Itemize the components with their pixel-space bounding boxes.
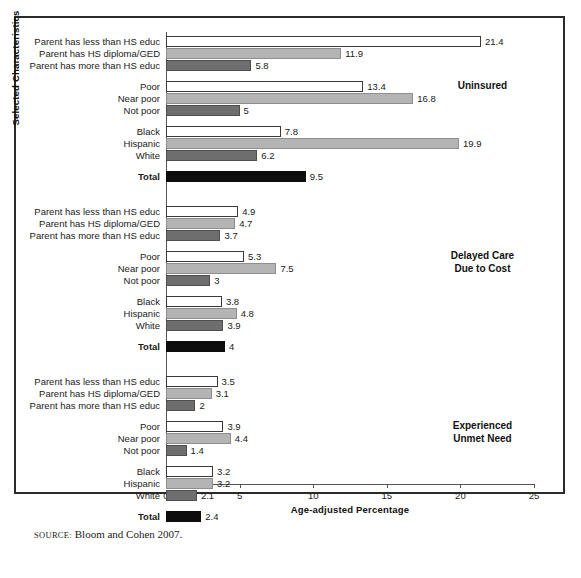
row-label: Parent has HS diploma/GED bbox=[39, 48, 160, 60]
bar-value-label: 3.7 bbox=[224, 230, 237, 241]
row-label: Total bbox=[138, 511, 160, 523]
bar-row: 1.4 bbox=[166, 445, 534, 456]
bar[interactable] bbox=[166, 126, 281, 137]
bar-row: 3 bbox=[166, 275, 534, 286]
row-label: Black bbox=[137, 466, 160, 478]
row-label: Parent has more than HS educ bbox=[30, 400, 160, 412]
bar[interactable] bbox=[166, 48, 341, 59]
bar[interactable] bbox=[166, 478, 213, 489]
x-axis-title: Age-adjusted Percentage bbox=[166, 504, 534, 515]
bar-row: 4.9 bbox=[166, 206, 534, 217]
row-label: Total bbox=[138, 341, 160, 353]
panel-caption: Delayed CareDue to Cost bbox=[451, 250, 514, 275]
row-label-column: Parent has less than HS educParent has H… bbox=[16, 32, 160, 480]
bar-row: 2 bbox=[166, 400, 534, 411]
bar[interactable] bbox=[166, 263, 276, 274]
bar[interactable] bbox=[166, 36, 481, 47]
row-label: Parent has HS diploma/GED bbox=[39, 388, 160, 400]
bar-value-label: 13.4 bbox=[367, 81, 386, 92]
panel-caption-line: Due to Cost bbox=[451, 263, 514, 276]
bar-row: 7.8 bbox=[166, 126, 534, 137]
row-label: Poor bbox=[140, 81, 160, 93]
bar[interactable] bbox=[166, 341, 225, 352]
row-label: Parent has less than HS educ bbox=[34, 206, 160, 218]
bar-value-label: 9.5 bbox=[310, 171, 323, 182]
bar[interactable] bbox=[166, 150, 257, 161]
bar-row: 4.7 bbox=[166, 218, 534, 229]
bar-row: 3.2 bbox=[166, 466, 534, 477]
bar-row: 3.7 bbox=[166, 230, 534, 241]
bar-row: 19.9 bbox=[166, 138, 534, 149]
bar[interactable] bbox=[166, 251, 244, 262]
bar-value-label: 19.9 bbox=[463, 138, 482, 149]
figure-frame: Selected Characteristics Parent has less… bbox=[14, 16, 565, 494]
bar-value-label: 11.9 bbox=[345, 48, 363, 59]
row-label: Parent has more than HS educ bbox=[30, 60, 160, 72]
source-note: source: Bloom and Cohen 2007. bbox=[34, 528, 182, 540]
row-label: Near poor bbox=[118, 93, 160, 105]
bar-value-label: 2 bbox=[199, 400, 204, 411]
bar[interactable] bbox=[166, 466, 213, 477]
bar[interactable] bbox=[166, 433, 231, 444]
row-label: Parent has less than HS educ bbox=[34, 36, 160, 48]
bar[interactable] bbox=[166, 445, 187, 456]
bar-row: 3.8 bbox=[166, 296, 534, 307]
row-label: Parent has more than HS educ bbox=[30, 230, 160, 242]
bar[interactable] bbox=[166, 490, 197, 501]
source-text: Bloom and Cohen 2007. bbox=[75, 528, 183, 540]
row-label: Black bbox=[137, 126, 160, 138]
bar-row: 5.8 bbox=[166, 60, 534, 71]
panel-caption: Uninsured bbox=[458, 80, 507, 93]
bar-row: 5 bbox=[166, 105, 534, 116]
bar-value-label: 3 bbox=[214, 275, 219, 286]
bar-value-label: 4.4 bbox=[235, 433, 248, 444]
row-label: Black bbox=[137, 296, 160, 308]
bar[interactable] bbox=[166, 388, 212, 399]
bar[interactable] bbox=[166, 218, 235, 229]
row-label: White bbox=[136, 150, 160, 162]
bar[interactable] bbox=[166, 138, 459, 149]
bar-row: 3.5 bbox=[166, 376, 534, 387]
row-label: Poor bbox=[140, 251, 160, 263]
panel-caption-line: Delayed Care bbox=[451, 250, 514, 263]
bar-row: 3.2 bbox=[166, 478, 534, 489]
bar[interactable] bbox=[166, 60, 251, 71]
bar[interactable] bbox=[166, 206, 238, 217]
bar[interactable] bbox=[166, 296, 222, 307]
row-label: Hispanic bbox=[124, 308, 160, 320]
row-label: Near poor bbox=[118, 433, 160, 445]
bar[interactable] bbox=[166, 81, 363, 92]
bar-value-label: 3.2 bbox=[217, 466, 230, 477]
row-label: Parent has HS diploma/GED bbox=[39, 218, 160, 230]
bar[interactable] bbox=[166, 171, 306, 182]
row-label: Not poor bbox=[124, 105, 160, 117]
bar-value-label: 3.1 bbox=[216, 388, 229, 399]
bar-value-label: 2.1 bbox=[201, 490, 214, 501]
bar[interactable] bbox=[166, 105, 240, 116]
bar-value-label: 5 bbox=[244, 105, 249, 116]
bar-value-label: 4.7 bbox=[239, 218, 252, 229]
bar-value-label: 3.8 bbox=[226, 296, 239, 307]
bar-value-label: 16.8 bbox=[417, 93, 436, 104]
bar[interactable] bbox=[166, 308, 237, 319]
bar-value-label: 6.2 bbox=[261, 150, 274, 161]
row-label: Hispanic bbox=[124, 138, 160, 150]
bar-value-label: 7.5 bbox=[280, 263, 293, 274]
bar-value-label: 4.9 bbox=[242, 206, 255, 217]
bar-row: 16.8 bbox=[166, 93, 534, 104]
bar[interactable] bbox=[166, 230, 220, 241]
bar[interactable] bbox=[166, 400, 195, 411]
bar[interactable] bbox=[166, 376, 218, 387]
bar[interactable] bbox=[166, 421, 223, 432]
bar[interactable] bbox=[166, 275, 210, 286]
bar-row: 3.1 bbox=[166, 388, 534, 399]
bar-value-label: 3.5 bbox=[222, 376, 235, 387]
row-label: Not poor bbox=[124, 445, 160, 457]
bar[interactable] bbox=[166, 320, 223, 331]
bar-row: 4.8 bbox=[166, 308, 534, 319]
bar-row: 2.1 bbox=[166, 490, 534, 501]
bar[interactable] bbox=[166, 93, 413, 104]
row-label: Hispanic bbox=[124, 478, 160, 490]
plot-area: 0510152025 21.411.95.813.416.857.819.96.… bbox=[166, 32, 534, 480]
row-label: Poor bbox=[140, 421, 160, 433]
